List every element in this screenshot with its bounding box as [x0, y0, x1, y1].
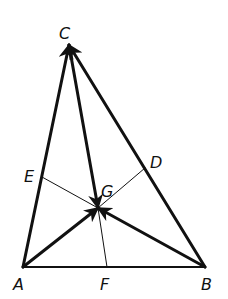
point-label-e: E	[24, 167, 35, 186]
segments-group	[23, 45, 205, 267]
vector-bg	[98, 208, 205, 267]
segment-eg	[42, 177, 98, 208]
point-label-c: C	[59, 24, 71, 43]
point-label-b: B	[201, 275, 212, 294]
point-label-d: D	[150, 153, 162, 172]
point-label-g: G	[101, 182, 113, 201]
point-label-f: F	[100, 275, 110, 294]
triangle-diagram: A B C D E F G	[0, 0, 228, 299]
vector-ac	[23, 45, 69, 267]
point-label-a: A	[12, 275, 24, 294]
segment-gf	[98, 208, 107, 267]
